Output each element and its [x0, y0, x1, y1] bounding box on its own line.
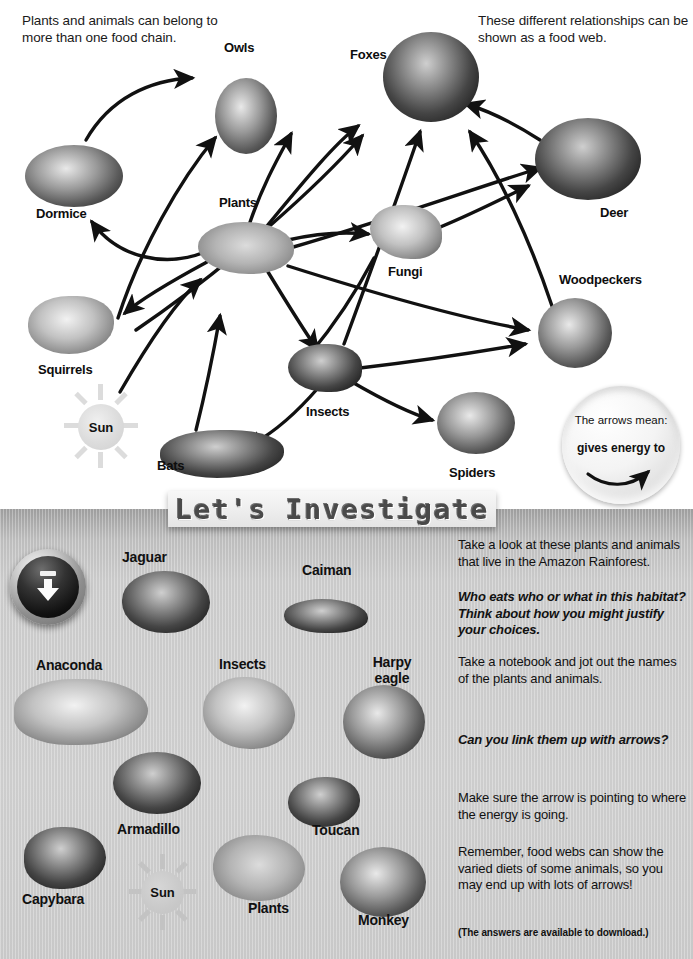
gallery-label-jaguar: Jaguar — [122, 549, 167, 565]
node-label-squirrels: Squirrels — [38, 362, 93, 377]
node-label-woodpeckers: Woodpeckers — [559, 272, 642, 287]
gallery-label-sun: Sun — [150, 885, 175, 900]
instruction-paragraph-4: Can you link them up with arrows? — [458, 732, 690, 749]
legend-arrow-icon — [562, 462, 680, 502]
instruction-paragraph-2: Who eats who or what in this habitat? Th… — [458, 589, 690, 639]
gallery-label-plants: Plants — [248, 900, 289, 916]
node-label-dormice: Dormice — [36, 206, 87, 221]
node-label-plants: Plants — [219, 195, 257, 210]
node-label-fungi: Fungi — [388, 264, 422, 279]
gallery-label-armadillo: Armadillo — [117, 821, 180, 837]
node-label-bats: Bats — [157, 458, 184, 473]
instruction-paragraph-3: Take a notebook and jot out the names of… — [458, 654, 690, 687]
gallery-label-monkey: Monkey — [358, 912, 409, 928]
node-label-owls: Owls — [224, 40, 254, 55]
legend-line-1: The arrows mean: — [562, 414, 680, 428]
food-web-diagram: Plants and animals can belong to more th… — [0, 0, 693, 512]
gallery-label-capybara: Capybara — [22, 891, 84, 907]
gallery-label-toucan: Toucan — [312, 822, 360, 838]
gallery-label-insects: Insects — [219, 656, 266, 672]
legend-arrows-meaning: The arrows mean: gives energy to — [562, 386, 680, 504]
node-label-spiders: Spiders — [449, 465, 495, 480]
intro-text-right: These different relationships can be sho… — [478, 12, 690, 46]
instruction-paragraph-6: Remember, food webs can show the varied … — [458, 844, 690, 894]
gallery-label-anaconda: Anaconda — [36, 657, 102, 673]
gallery-label-harpy-eagle: Harpy eagle — [364, 654, 420, 686]
node-label-deer: Deer — [600, 205, 628, 220]
legend-line-2: gives energy to — [562, 441, 680, 455]
banner-title: Let's Investigate — [175, 494, 489, 525]
node-label-sun: Sun — [89, 420, 114, 435]
gallery-label-caiman: Caiman — [302, 562, 351, 578]
worksheet-page: Plants and animals can belong to more th… — [0, 0, 693, 959]
intro-text-left: Plants and animals can belong to more th… — [22, 12, 237, 46]
answers-note: (The answers are available to download.) — [458, 925, 690, 942]
node-label-insects: Insects — [306, 404, 349, 419]
node-label-foxes: Foxes — [350, 47, 387, 62]
lets-investigate-panel: Jaguar Caiman Anaconda Insects Harpy eag… — [0, 509, 693, 959]
lets-investigate-banner: Let's Investigate — [168, 491, 496, 527]
download-arrow-icon — [17, 556, 79, 618]
instruction-paragraph-1: Take a look at these plants and animals … — [458, 537, 690, 570]
instruction-paragraph-5: Make sure the arrow is pointing to where… — [458, 790, 690, 823]
download-button[interactable] — [10, 549, 86, 625]
